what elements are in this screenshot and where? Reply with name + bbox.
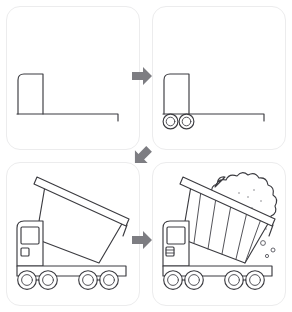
load-stipple-3: [253, 189, 254, 190]
wheel-3-outer: [79, 271, 98, 290]
falling-pebble-2: [271, 248, 275, 252]
wheel-2-outer: [39, 271, 58, 290]
tutorial-step-panel-4[interactable]: Add vertical ribs to the bed and the loa…: [152, 162, 286, 306]
wheel-3-outer: [225, 271, 244, 290]
step-2-drawing: [153, 7, 287, 151]
wheel-4-outer: [246, 271, 265, 290]
cab-lower-panel: [21, 248, 29, 256]
step-3-drawing: [7, 163, 141, 307]
front-wheel-outer: [163, 114, 178, 129]
falling-pebble-3: [265, 254, 268, 257]
falling-pebble-1: [261, 241, 266, 246]
chassis-line: [17, 114, 118, 121]
arrow-down-left-icon: [128, 142, 156, 170]
load-stipple-4: [260, 200, 261, 201]
wheel-2-outer: [185, 271, 204, 290]
top-rail-end-tick: [269, 225, 273, 236]
cab-outline: [18, 74, 43, 114]
step-4-drawing: [153, 163, 287, 307]
tutorial-step-panel-1[interactable]: Draw the cab outline and the long chassi…: [6, 6, 140, 150]
wheel-1-outer: [18, 271, 37, 290]
arrow-right-icon: [128, 62, 156, 90]
arrow-step-2-to-3: [128, 142, 156, 170]
load-stipple-2: [247, 196, 248, 197]
tutorial-step-panel-2[interactable]: Add two front wheels under the cab: [152, 6, 286, 150]
cab-lower-panel: [166, 247, 174, 256]
arrow-step-1-to-2: [128, 62, 156, 90]
top-rail-end-tick: [123, 225, 127, 236]
second-wheel-outer: [179, 114, 194, 129]
cab-window: [167, 227, 185, 244]
arrow-step-3-to-4: [128, 226, 156, 254]
load-stipple-1: [238, 192, 239, 193]
tutorial-step-panel-3[interactable]: Add the raised tilted dump bed, top rail…: [6, 162, 140, 306]
wheel-1-outer: [164, 271, 183, 290]
step-1-drawing: [7, 7, 141, 151]
arrow-right-icon: [128, 226, 156, 254]
cab-outline: [164, 74, 189, 114]
wheel-4-outer: [100, 271, 119, 290]
cab-window: [21, 227, 39, 244]
drawing-tutorial: Draw the cab outline and the long chassi…: [0, 0, 292, 312]
